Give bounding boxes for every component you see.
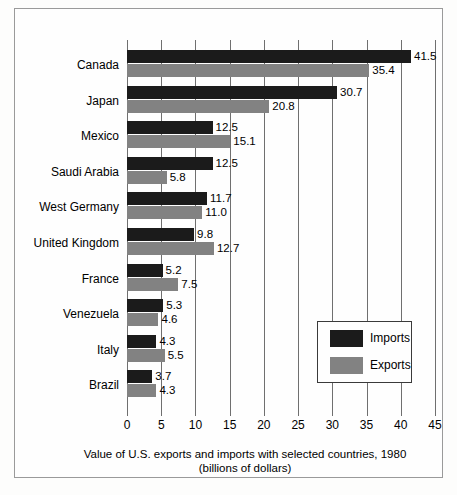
legend-swatch-imports <box>330 330 363 347</box>
legend-item-imports: Imports <box>330 330 410 348</box>
bar-value-label: 20.8 <box>272 100 294 113</box>
bar-imports-brazil <box>127 370 152 383</box>
category-label-west-germany: West Germany <box>15 199 119 215</box>
bar-value-label: 15.1 <box>233 135 255 148</box>
x-tick-label-45: 45 <box>415 418 455 432</box>
bar-imports-mexico <box>127 121 213 134</box>
bar-exports-japan <box>127 100 269 113</box>
bar-imports-italy <box>127 335 156 348</box>
bar-imports-france <box>127 264 163 277</box>
category-label-brazil: Brazil <box>15 377 119 393</box>
bar-value-label: 5.8 <box>170 171 186 184</box>
chart-legend: Imports Exports <box>317 321 412 383</box>
bar-value-label: 35.4 <box>372 64 394 77</box>
category-label-united-kingdom: United Kingdom <box>15 235 119 251</box>
x-tick-25 <box>298 407 299 416</box>
x-tick-15 <box>230 407 231 416</box>
bar-imports-west-germany <box>127 192 207 205</box>
caption-line-1: Value of U.S. exports and imports with s… <box>45 447 445 461</box>
x-tick-20 <box>264 407 265 416</box>
bar-group: 9.812.7 <box>127 228 457 259</box>
bar-imports-venezuela <box>127 299 163 312</box>
bar-value-label: 4.6 <box>161 313 177 326</box>
bar-value-label: 12.7 <box>217 242 239 255</box>
bar-group: 5.27.5 <box>127 264 457 295</box>
bar-group: 11.711.0 <box>127 192 457 223</box>
bar-value-label: 12.5 <box>216 121 238 134</box>
category-label-mexico: Mexico <box>15 128 119 144</box>
bar-value-label: 4.3 <box>159 384 175 397</box>
bar-imports-saudi-arabia <box>127 157 213 170</box>
bar-exports-brazil <box>127 384 156 397</box>
bar-group: 30.720.8 <box>127 86 457 117</box>
bar-exports-italy <box>127 349 165 362</box>
bar-imports-canada <box>127 50 411 63</box>
bar-value-label: 5.2 <box>166 264 182 277</box>
category-axis-labels: CanadaJapanMexicoSaudi ArabiaWest German… <box>15 50 119 410</box>
x-tick-10 <box>195 407 196 416</box>
x-tick-5 <box>161 407 162 416</box>
bar-value-label: 7.5 <box>181 278 197 291</box>
bar-value-label: 5.5 <box>168 349 184 362</box>
bar-value-label: 12.5 <box>216 157 238 170</box>
bar-exports-west-germany <box>127 206 202 219</box>
bar-exports-saudi-arabia <box>127 171 167 184</box>
bar-exports-venezuela <box>127 313 158 326</box>
bar-value-label: 11.7 <box>210 192 232 205</box>
legend-item-exports: Exports <box>330 357 410 375</box>
bar-value-label: 9.8 <box>197 228 213 241</box>
legend-label-exports: Exports <box>370 358 411 373</box>
x-tick-45 <box>435 407 436 416</box>
chart-frame: 41.535.430.720.812.515.112.55.811.711.09… <box>14 8 443 478</box>
category-label-canada: Canada <box>15 57 119 73</box>
bar-value-label: 3.7 <box>155 370 171 383</box>
x-tick-30 <box>332 407 333 416</box>
category-label-saudi-arabia: Saudi Arabia <box>15 164 119 180</box>
legend-swatch-exports <box>330 357 363 374</box>
chart-figure: 41.535.430.720.812.515.112.55.811.711.09… <box>0 0 457 495</box>
category-label-japan: Japan <box>15 93 119 109</box>
bar-imports-japan <box>127 86 337 99</box>
bar-group: 12.515.1 <box>127 121 457 152</box>
bar-value-label: 4.3 <box>159 335 175 348</box>
category-label-venezuela: Venezuela <box>15 306 119 322</box>
bar-value-label: 11.0 <box>205 206 227 219</box>
caption-line-2: (billions of dollars) <box>45 461 445 475</box>
bar-value-label: 41.5 <box>414 50 436 63</box>
bar-imports-united-kingdom <box>127 228 194 241</box>
bar-exports-united-kingdom <box>127 242 214 255</box>
bar-group: 41.535.4 <box>127 50 457 81</box>
bar-group: 12.55.8 <box>127 157 457 188</box>
legend-label-imports: Imports <box>370 331 410 346</box>
bar-value-label: 5.3 <box>166 299 182 312</box>
x-tick-40 <box>401 407 402 416</box>
x-tick-0 <box>127 407 128 416</box>
bar-value-label: 30.7 <box>340 86 362 99</box>
bar-exports-canada <box>127 64 369 77</box>
x-tick-35 <box>367 407 368 416</box>
category-label-italy: Italy <box>15 342 119 358</box>
chart-caption: Value of U.S. exports and imports with s… <box>45 447 445 475</box>
bar-exports-mexico <box>127 135 230 148</box>
category-label-france: France <box>15 271 119 287</box>
bar-exports-france <box>127 278 178 291</box>
